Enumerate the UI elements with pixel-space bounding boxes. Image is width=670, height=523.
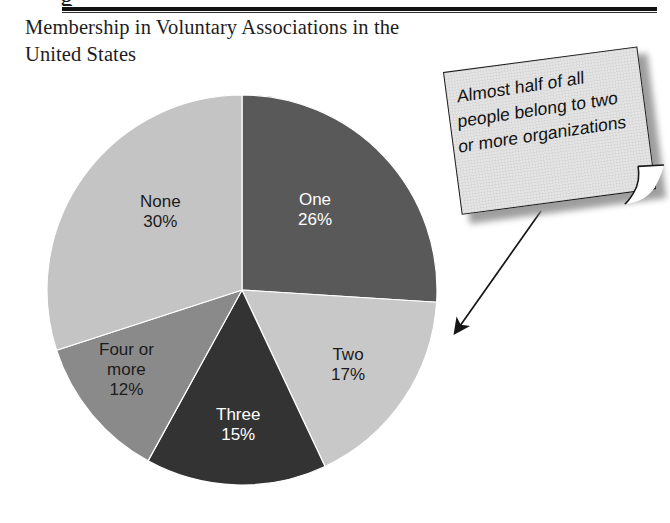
annotation-note: Almost half of all people belong to two … <box>443 45 666 222</box>
figure-page: g Membership in Voluntary Associations i… <box>0 0 670 523</box>
pie-slice-one[interactable] <box>242 95 437 302</box>
note-curled-corner-icon <box>618 159 669 205</box>
